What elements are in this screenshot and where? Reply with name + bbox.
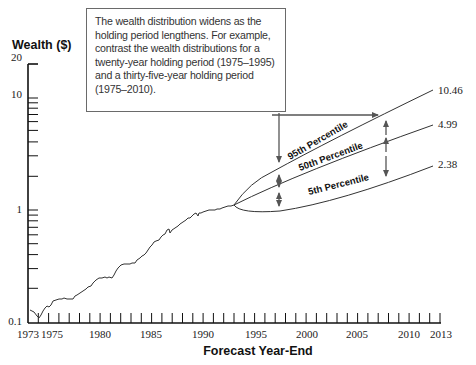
x-tick-label: 1985 (140, 328, 163, 340)
y-tick-label: 0.1 (8, 315, 22, 327)
x-ticks (38, 313, 440, 323)
x-tick-label: 2013 (430, 328, 453, 340)
end-value-5: 2.38 (438, 158, 458, 170)
annotation-callout-box: The wealth distribution widens as the ho… (86, 8, 286, 112)
x-axis-title: Forecast Year-End (0, 344, 476, 358)
x-tick-label: 2010 (398, 328, 421, 340)
x-tick-label: 1975 (41, 328, 64, 340)
y-axis-title: Wealth ($) (12, 38, 72, 52)
x-tick-label: 1980 (89, 328, 112, 340)
x-tick-label: 1990 (192, 328, 215, 340)
end-value-95: 10.46 (438, 84, 463, 96)
y-tick-label: 20 (11, 51, 23, 63)
x-tick-label: 1995 (245, 328, 268, 340)
x-tick-label: 2000 (296, 328, 319, 340)
y-minor-ticks (28, 98, 38, 288)
y-tick-label: 10 (11, 88, 23, 100)
x-tick-label: 1973 (17, 328, 40, 340)
historical-wealth-line (30, 205, 234, 318)
x-tick-label: 2005 (346, 328, 369, 340)
y-tick-label: 1 (17, 203, 23, 215)
percentile-5-label: 5th Percentile (307, 171, 370, 197)
end-value-50: 4.99 (438, 118, 458, 130)
